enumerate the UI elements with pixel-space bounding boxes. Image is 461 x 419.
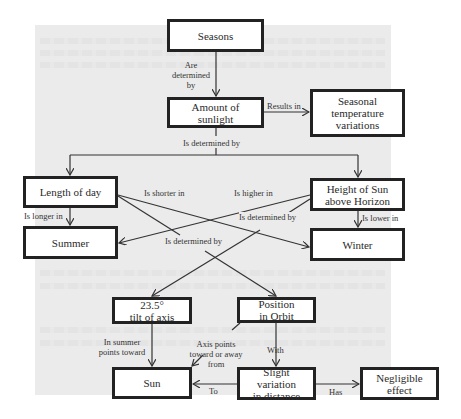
node-position-in-orbit: Position in Orbit — [237, 297, 316, 323]
edge-label-is-higher-in: Is higher in — [234, 188, 273, 198]
edge-label-line: determined — [168, 70, 214, 80]
edge-label-has: Has — [329, 387, 342, 397]
node-axis-tilt: 23.5° tilt of axis — [112, 297, 192, 324]
node-winter: Winter — [310, 228, 405, 261]
node-label: Length of day — [40, 186, 102, 198]
edge-label-line: by — [168, 80, 214, 90]
node-label: Amount of sunlight — [173, 101, 258, 125]
node-label: Winter — [342, 239, 372, 251]
node-label: effect — [387, 384, 412, 396]
edge-label-line: In summer — [94, 337, 150, 347]
node-height-of-sun: Height of Sun above Horizon — [310, 178, 405, 211]
edge-label-results-in: Results in — [267, 101, 301, 111]
node-label: in distance — [253, 390, 300, 402]
node-amount-of-sunlight: Amount of sunlight — [167, 97, 264, 128]
edge-label-is-lower-in: Is lower in — [362, 213, 398, 223]
node-label: Position — [258, 298, 294, 310]
edge-label-is-longer-in: Is longer in — [24, 211, 63, 221]
edge-label-with: With — [267, 345, 284, 355]
edge-label-is-determined-by-right: Is determined by — [239, 212, 296, 222]
node-slight-variation-in-distance: Slight variation in distance — [237, 367, 316, 400]
edge-label-line: points toward — [94, 347, 150, 357]
node-label: Seasonal — [338, 95, 377, 107]
node-summer: Summer — [23, 226, 118, 259]
node-label: Height of Sun — [327, 183, 389, 195]
edge-label-axis-points: Axis points toward or away from — [186, 339, 246, 369]
node-sun: Sun — [112, 367, 192, 399]
edge-label-to: To — [209, 386, 218, 396]
node-label: variations — [336, 119, 379, 131]
edge-label-line: Axis points — [186, 339, 246, 349]
node-label: Summer — [52, 237, 89, 249]
node-label: Sun — [143, 377, 160, 389]
node-label: in Orbit — [259, 310, 294, 322]
node-label: Seasons — [198, 30, 233, 42]
edge-label-line: toward or away — [186, 349, 246, 359]
node-label: 23.5° — [140, 299, 164, 311]
edge-label-is-determined-by-left: Is determined by — [165, 236, 222, 246]
node-label: Negligible — [376, 372, 422, 384]
edge-label-line: from — [186, 359, 246, 369]
edge-label-are-determined-by: Are determined by — [168, 60, 214, 90]
node-label: Slight variation — [243, 366, 310, 390]
edge-label-is-shorter-in: Is shorter in — [144, 188, 185, 198]
node-label: temperature — [331, 107, 384, 119]
node-label: above Horizon — [325, 195, 390, 207]
node-length-of-day: Length of day — [23, 176, 118, 208]
edge-label-is-determined-by-top: Is determined by — [183, 138, 240, 148]
node-label: tilt of axis — [130, 311, 175, 323]
edge-label-in-summer-points-toward: In summer points toward — [94, 337, 150, 357]
node-negligible-effect: Negligible effect — [360, 367, 439, 400]
edge-label-line: Are — [168, 60, 214, 70]
node-seasons: Seasons — [167, 19, 264, 52]
node-seasonal-temperature-variations: Seasonal temperature variations — [310, 89, 405, 137]
